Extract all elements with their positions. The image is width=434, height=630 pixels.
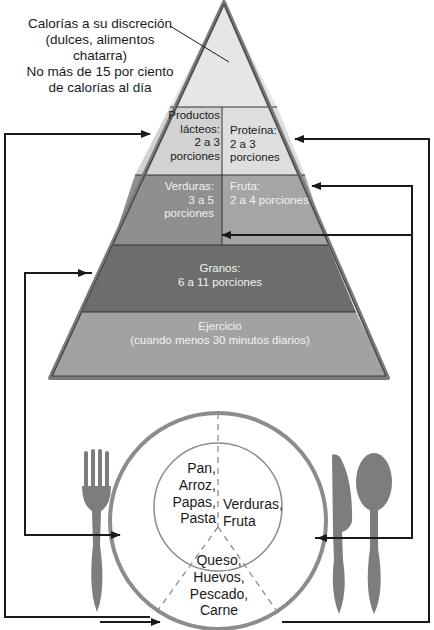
dairy-line-1: Productos (160, 109, 220, 123)
protein-line-2: 2 a 3 (230, 138, 300, 152)
plate-protein-label: Queso, Huevos, Pescado, Carne (178, 552, 260, 619)
note-line-5: de calorías al día (20, 80, 180, 96)
plate-produce-line-1: Verduras, (223, 496, 293, 513)
exercise-label: Ejercicio (cuando menos 30 minutos diari… (90, 320, 350, 347)
fork-icon (82, 449, 111, 612)
protein-line-3: porciones (230, 151, 300, 165)
plate-grains-line-2: Arroz, (160, 477, 216, 494)
protein-label: Proteína: 2 a 3 porciones (230, 124, 300, 165)
dairy-line-2: lácteos: (160, 123, 220, 137)
dairy-line-4: porciones (160, 150, 220, 164)
spoon-icon (356, 453, 392, 614)
plate-produce-line-2: Fruta (223, 513, 293, 530)
grains-label: Granos: 6 a 11 porciones (120, 262, 320, 289)
note-line-1: Calorías a su discreción (20, 16, 180, 32)
plate-protein-line-3: Pescado, (178, 586, 260, 603)
vegetables-label: Verduras: 3 a 5 porciones (150, 180, 214, 221)
discretionary-calories-note: Calorías a su discreción (dulces, alimen… (20, 16, 180, 96)
protein-line-1: Proteína: (230, 124, 300, 138)
plate-grains-line-3: Papas, (160, 494, 216, 511)
dairy-line-3: 2 a 3 (160, 136, 220, 150)
grains-line-1: Granos: (120, 262, 320, 276)
knife-icon (332, 454, 352, 614)
vegetables-line-3: porciones (150, 207, 214, 221)
plate-produce-label: Verduras, Fruta (223, 496, 293, 530)
exercise-line-2: (cuando menos 30 minutos diarios) (90, 334, 350, 348)
exercise-line-1: Ejercicio (90, 320, 350, 334)
note-line-3: chatarra) (20, 48, 180, 64)
vegetables-line-1: Verduras: (150, 180, 214, 194)
note-line-2: (dulces, alimentos (20, 32, 180, 48)
note-line-4: No más de 15 por ciento (20, 64, 180, 80)
fruit-label: Fruta: 2 a 4 porciones (230, 180, 330, 207)
plate-protein-line-2: Huevos, (178, 569, 260, 586)
dairy-label: Productos lácteos: 2 a 3 porciones (160, 109, 220, 163)
plate-grains-label: Pan, Arroz, Papas, Pasta (160, 460, 216, 527)
vegetables-line-2: 3 a 5 (150, 194, 214, 208)
plate-grains-line-1: Pan, (160, 460, 216, 477)
plate-protein-line-1: Queso, (178, 552, 260, 569)
plate-protein-line-4: Carne (178, 602, 260, 619)
fruit-line-2: 2 a 4 porciones (230, 194, 330, 208)
grains-line-2: 6 a 11 porciones (120, 276, 320, 290)
fruit-line-1: Fruta: (230, 180, 330, 194)
plate-grains-line-4: Pasta (160, 510, 216, 527)
